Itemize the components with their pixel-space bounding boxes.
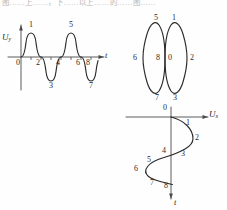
lissajous-label-1: 1 — [172, 14, 176, 22]
point-label-0: 0 — [163, 104, 167, 112]
sine-curve-vertical — [146, 117, 193, 185]
point-label-4: 4 — [162, 147, 166, 155]
trough-label-3: 3 — [49, 82, 53, 90]
x-tick-label-4: 4 — [56, 59, 60, 67]
figure-vertical-deflection-waveform: Uy t 0 2 4 6 8 1 3 5 7 — [0, 12, 115, 100]
uy-axis-label: Uy — [2, 33, 11, 42]
point-label-5: 5 — [147, 156, 151, 164]
lissajous-left-lobe — [143, 23, 165, 94]
cropped-header-strip: 图……上……，下……以上……的……图…… — [0, 0, 227, 9]
crest-label-1: 1 — [29, 21, 33, 29]
point-label-1: 1 — [186, 119, 190, 127]
t-axis-vertical — [169, 107, 173, 199]
lissajous-label-0: 0 — [168, 54, 172, 62]
x-tick-label-8: 8 — [86, 59, 90, 67]
cropped-header-text: 图……上……，下……以上……的……图…… — [2, 0, 156, 7]
ux-axis — [126, 115, 208, 119]
point-label-3: 3 — [181, 150, 185, 158]
x-tick-label-6: 6 — [76, 59, 80, 67]
figure-horizontal-deflection-waveform: Ux t 0 1 2 3 4 5 6 7 8 — [120, 100, 227, 210]
point-label-2: 2 — [195, 134, 199, 142]
x-tick-label-2: 2 — [36, 59, 40, 67]
trough-label-7: 7 — [89, 82, 93, 90]
point-label-7: 7 — [150, 179, 154, 187]
lissajous-label-8: 8 — [156, 54, 160, 62]
point-label-8: 8 — [164, 182, 168, 190]
t-axis-label-vertical: t — [174, 198, 176, 207]
lissajous-label-5: 5 — [154, 14, 158, 22]
figure-lissajous-pattern: 5 1 6 8 0 2 7 3 — [122, 14, 208, 102]
lissajous-label-6: 6 — [133, 54, 137, 62]
ux-axis-label: Ux — [209, 110, 218, 119]
point-label-6: 6 — [134, 165, 138, 173]
t-axis-label: t — [105, 51, 107, 60]
left-waveform-svg — [0, 12, 115, 100]
x-tick-label-0: 0 — [16, 59, 20, 67]
lissajous-label-2: 2 — [190, 54, 194, 62]
crest-label-5: 5 — [69, 21, 73, 29]
